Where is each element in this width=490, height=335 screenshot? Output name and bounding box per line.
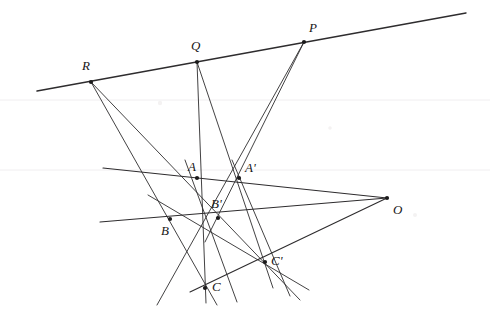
vertex-dot-C bbox=[203, 286, 207, 290]
vertex-dot-Cp bbox=[263, 260, 267, 264]
point-label-O: O bbox=[393, 202, 403, 217]
diagram-canvas: RQPAA'BB'CC'O bbox=[0, 0, 490, 335]
point-label-A: A bbox=[187, 159, 196, 174]
point-label-R: R bbox=[81, 58, 90, 73]
point-label-B: B bbox=[161, 223, 169, 238]
paper-mark bbox=[413, 213, 417, 217]
paper-mark bbox=[328, 126, 332, 130]
vertex-dot-Ap bbox=[237, 176, 241, 180]
vertex-dot-Bp bbox=[216, 216, 220, 220]
point-label-Bp: B' bbox=[211, 196, 222, 211]
point-label-Cp: C' bbox=[271, 253, 283, 268]
geometry-figure: RQPAA'BB'CC'O bbox=[0, 0, 490, 335]
paper-mark bbox=[158, 101, 162, 105]
vertex-dot-B bbox=[168, 217, 172, 221]
vertex-dot-O bbox=[385, 196, 389, 200]
point-label-P: P bbox=[308, 20, 317, 35]
point-labels: RQPAA'BB'CC'O bbox=[81, 20, 403, 294]
vertex-dot-A bbox=[195, 176, 199, 180]
side-Ap-to-Cp bbox=[232, 160, 290, 296]
point-label-C: C bbox=[212, 279, 221, 294]
vertex-dot-Q bbox=[195, 60, 199, 64]
axis-line-PQR bbox=[37, 13, 466, 91]
line-Q-through-A-C bbox=[197, 62, 206, 303]
vertex-dot-P bbox=[302, 40, 306, 44]
point-label-Q: Q bbox=[191, 38, 201, 53]
vertex-dots bbox=[89, 40, 389, 290]
paper-smudges bbox=[158, 101, 417, 217]
vertex-dot-R bbox=[89, 80, 93, 84]
line-Q-to-Cp bbox=[197, 62, 273, 288]
figure-lines bbox=[37, 13, 466, 305]
side-B-to-Cp-ext bbox=[148, 195, 309, 290]
point-label-Ap: A' bbox=[244, 160, 256, 175]
